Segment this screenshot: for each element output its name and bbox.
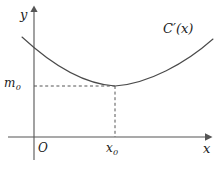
x0-base: x [106, 141, 113, 155]
x-axis-arrow-icon [205, 133, 213, 141]
x-axis-label: x [203, 142, 210, 155]
m0-subscript: 0 [16, 82, 21, 92]
m0-base: m [4, 76, 15, 90]
calculus-graph-figure: y x O m0 x0 C′(x) [0, 0, 217, 169]
x0-subscript: 0 [113, 147, 118, 157]
y-axis-label: y [20, 8, 27, 21]
curve-argument: (x) [176, 21, 193, 36]
curve-function-label: C′(x) [163, 22, 193, 35]
marginal-cost-curve [22, 37, 213, 86]
m0-axis-label: m0 [4, 77, 21, 91]
curve-base: C [163, 21, 173, 36]
x0-axis-label: x0 [106, 142, 118, 156]
origin-label: O [38, 142, 48, 154]
y-axis-arrow-icon [30, 6, 37, 13]
